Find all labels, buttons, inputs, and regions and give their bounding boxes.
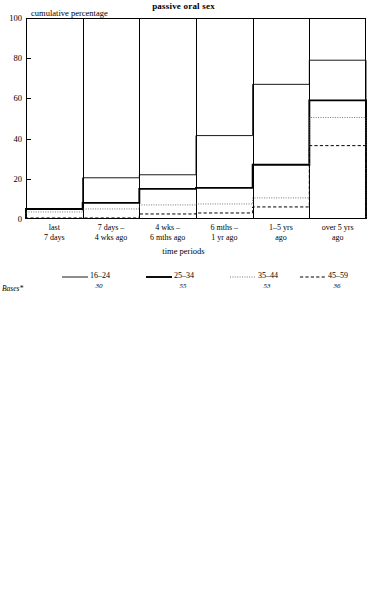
x-category-line1: 4 wks – — [155, 223, 180, 232]
x-category-line1: 7 days – — [98, 223, 125, 232]
x-category-line2: 6 mths ago — [150, 233, 185, 242]
legend-swatch-16-24 — [62, 274, 88, 280]
x-category-label: 1–5 yrsago — [253, 223, 310, 242]
series-line-16-24 — [26, 60, 366, 219]
x-category-label: 6 mths –1 yr ago — [196, 223, 253, 242]
legend-swatch-35-44 — [230, 274, 256, 280]
legend-label: 35–44 — [258, 271, 292, 280]
legend-label: 16–24 — [90, 271, 124, 280]
x-category-line2: ago — [275, 233, 287, 242]
x-category-line1: 6 mths – — [211, 223, 239, 232]
x-category-label: over 5 yrsago — [309, 223, 366, 242]
x-category-line2: ago — [332, 233, 344, 242]
x-category-line1: over 5 yrs — [322, 223, 354, 232]
x-category-line2: 7 days — [44, 233, 65, 242]
legend-base-value: 55 — [166, 282, 200, 290]
legend-label: 45–59 — [328, 271, 362, 280]
legend-base-value: 53 — [250, 282, 284, 290]
series-layer — [0, 0, 367, 307]
x-category-line2: 4 wks ago — [95, 233, 127, 242]
x-axis-title: time periods — [0, 246, 367, 256]
legend-base-value: 36 — [320, 282, 354, 290]
x-category-label: 4 wks –6 mths ago — [139, 223, 196, 242]
chart-panel-0: passive oral sexcumulative percentage020… — [0, 0, 367, 307]
legend-base-value: 30 — [82, 282, 116, 290]
legend-swatch-25-34 — [146, 274, 172, 280]
bases-label: Bases* — [2, 284, 23, 293]
legend-label: 25–34 — [174, 271, 208, 280]
x-category-label: 7 days –4 wks ago — [83, 223, 140, 242]
x-category-line2: 1 yr ago — [211, 233, 237, 242]
legend-swatch-45-59 — [300, 274, 326, 280]
x-category-line1: last — [49, 223, 60, 232]
x-category-line1: 1–5 yrs — [269, 223, 293, 232]
x-category-label: last7 days — [26, 223, 83, 242]
